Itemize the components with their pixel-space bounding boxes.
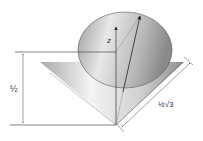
slant-tick-bottom — [117, 124, 124, 132]
slant-tick-top — [184, 57, 193, 65]
z-axis-label: z — [106, 36, 111, 45]
cone-top-ellipse — [78, 12, 172, 88]
height-label: ½ — [10, 84, 18, 94]
cone-diagram: ½ ½√3 z — [0, 0, 203, 141]
slant-label: ½√3 — [158, 100, 174, 109]
